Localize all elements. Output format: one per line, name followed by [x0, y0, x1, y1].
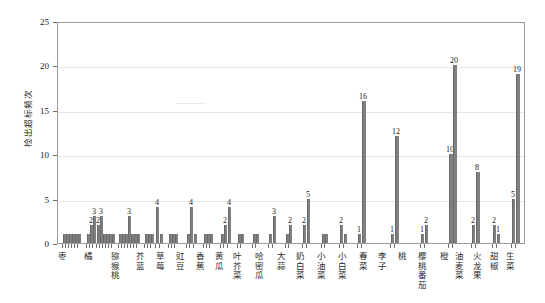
bar-value-label: 20	[447, 57, 461, 65]
bar	[512, 199, 515, 243]
bar-value-label: 4	[222, 199, 236, 207]
bar-value-label: 1	[491, 226, 505, 234]
x-tick-mark	[255, 244, 256, 248]
x-tick-mark	[150, 244, 151, 248]
x-axis-group-label: 樱桃番茄	[415, 252, 429, 290]
bar	[303, 225, 306, 243]
x-tick-mark	[105, 244, 106, 248]
bar	[516, 74, 520, 243]
x-tick-mark	[343, 244, 344, 248]
bar	[453, 65, 457, 243]
bar-value-label: 3	[267, 208, 281, 216]
bar	[78, 234, 81, 243]
x-tick-mark	[108, 244, 109, 248]
x-axis-group-label: 大蒜	[274, 252, 288, 271]
bar	[160, 234, 163, 243]
bar	[307, 199, 310, 243]
x-axis-group-label: 小白菜	[335, 252, 349, 281]
x-axis-group-label: 桃	[396, 252, 410, 262]
x-axis-group-label: 火龙果	[470, 252, 484, 281]
x-tick-mark	[118, 244, 119, 248]
bar-value-label: 2	[283, 217, 297, 225]
x-tick-mark	[102, 244, 103, 248]
x-tick-mark	[302, 244, 303, 248]
x-tick-mark	[62, 244, 63, 248]
bar-value-label: 2	[334, 217, 348, 225]
x-tick-mark	[452, 244, 453, 248]
x-tick-mark	[285, 244, 286, 248]
x-tick-mark	[394, 244, 395, 248]
x-tick-mark	[174, 244, 175, 248]
x-tick-mark	[121, 244, 122, 248]
bar	[391, 234, 394, 243]
bar	[476, 172, 480, 243]
x-tick-mark	[252, 244, 253, 248]
faint-line-artifact	[176, 103, 206, 104]
x-axis-group-label: 甜椒	[487, 252, 501, 271]
x-tick-mark	[130, 244, 131, 248]
x-tick-mark	[475, 244, 476, 248]
x-tick-mark	[223, 244, 224, 248]
x-tick-mark	[227, 244, 228, 248]
x-tick-mark	[99, 244, 100, 248]
bar	[358, 234, 361, 243]
plot-area: 232334424322521161121210202821519	[57, 22, 525, 244]
x-tick-mark	[65, 244, 66, 248]
x-axis-group-label: 枣	[55, 252, 69, 262]
y-tick-label: 0	[27, 239, 49, 249]
x-tick-mark	[159, 244, 160, 248]
x-tick-mark	[92, 244, 93, 248]
x-tick-mark	[220, 244, 221, 248]
bar	[289, 225, 292, 243]
x-tick-mark	[136, 244, 137, 248]
x-tick-mark	[74, 244, 75, 248]
x-tick-mark	[171, 244, 172, 248]
y-axis-title: 检出超标频次	[21, 53, 33, 183]
x-axis-group-label: 香蕉	[193, 252, 207, 271]
x-axis-group-label: 李子	[376, 252, 390, 271]
bar	[194, 234, 197, 243]
x-tick-mark	[127, 244, 128, 248]
x-axis-group-label: 橙	[437, 252, 451, 262]
x-tick-mark	[240, 244, 241, 248]
bar	[425, 225, 428, 243]
y-tick-label: 5	[27, 195, 49, 205]
y-tick-label: 10	[27, 150, 49, 160]
x-axis-group-label: 叶芥菜	[231, 252, 245, 281]
x-axis-group-label: 奶白菜	[294, 252, 308, 281]
x-tick-mark	[86, 244, 87, 248]
x-tick-mark	[390, 244, 391, 248]
x-tick-mark	[515, 244, 516, 248]
x-tick-mark	[448, 244, 449, 248]
x-tick-mark	[339, 244, 340, 248]
bar	[421, 234, 424, 243]
bar	[472, 225, 475, 243]
x-tick-mark	[268, 244, 269, 248]
bar-value-label: 4	[184, 199, 198, 207]
x-tick-mark	[77, 244, 78, 248]
x-tick-mark	[89, 244, 90, 248]
x-tick-mark	[124, 244, 125, 248]
x-axis-group-label: 生菜	[504, 252, 518, 271]
x-tick-mark	[168, 244, 169, 248]
bar-value-label: 3	[94, 208, 108, 216]
bar	[137, 234, 140, 243]
y-tick-label: 15	[27, 106, 49, 116]
x-axis-group-label: 小油菜	[315, 252, 329, 281]
x-tick-mark	[272, 244, 273, 248]
bar	[175, 234, 178, 243]
x-tick-mark	[189, 244, 190, 248]
x-tick-mark	[71, 244, 72, 248]
x-axis-group-label: 哈密瓜	[253, 252, 267, 281]
x-axis-group-label: 橘	[82, 252, 96, 262]
x-axis-group-label: 油麦菜	[452, 252, 466, 281]
bar	[395, 136, 399, 243]
bar	[241, 234, 244, 243]
x-axis-group-label: 黄瓜	[212, 252, 226, 271]
x-tick-mark	[420, 244, 421, 248]
x-tick-mark	[511, 244, 512, 248]
y-tick-label: 25	[27, 17, 49, 27]
x-tick-mark	[186, 244, 187, 248]
bar	[325, 234, 328, 243]
bar-value-label: 3	[122, 208, 136, 216]
